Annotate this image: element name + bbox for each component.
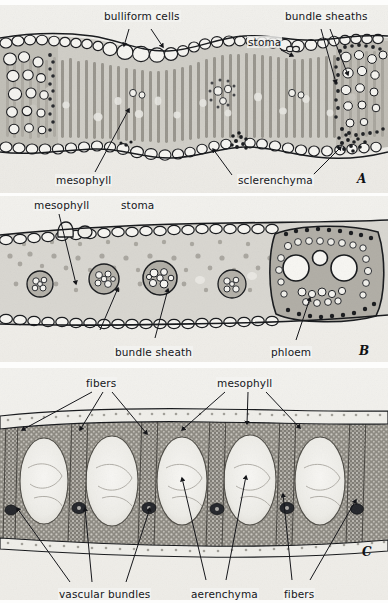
label-sclerenchyma: sclerenchyma xyxy=(237,174,314,186)
label-stoma-b: stoma xyxy=(120,199,155,211)
label-mesophyll-c: mesophyll xyxy=(216,377,273,389)
label-vascular-bundles: vascular bundles xyxy=(58,588,151,600)
label-mesophyll-b: mesophyll xyxy=(33,199,90,211)
plate-letter-c: C xyxy=(362,545,372,559)
plate-letter-b: B xyxy=(359,344,369,358)
label-aerenchyma: aerenchyma xyxy=(190,588,259,600)
label-mesophyll-a: mesophyll xyxy=(55,174,112,186)
label-phloem: phloem xyxy=(270,346,312,358)
label-bulliform-cells: bulliform cells xyxy=(103,10,181,22)
panel-a-micrograph xyxy=(0,5,388,193)
panel-b-micrograph xyxy=(0,196,388,362)
panel-a xyxy=(0,5,388,193)
panel-c xyxy=(0,368,388,600)
label-bundle-sheath: bundle sheath xyxy=(114,346,193,358)
plate-letter-a: A xyxy=(357,172,366,186)
label-stoma-a: stoma xyxy=(247,36,282,48)
panel-b xyxy=(0,196,388,362)
label-fibers-top: fibers xyxy=(85,377,117,389)
panel-c-micrograph xyxy=(0,368,388,600)
label-bundle-sheaths: bundle sheaths xyxy=(284,10,369,22)
micrograph-figure-plate: bulliform cells bundle sheaths stoma mes… xyxy=(0,0,388,603)
label-fibers-bottom: fibers xyxy=(283,588,315,600)
